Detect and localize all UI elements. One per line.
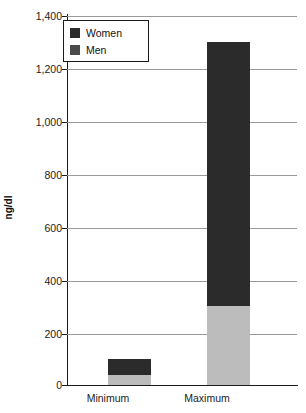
x-axis-line [65,385,298,386]
bar-minimum[interactable] [108,359,151,385]
y-tick-mark [62,281,67,282]
stacked-bar-chart: ng/dl 1,400 1,200 1,000 800 600 400 200 … [0,0,306,413]
y-tick-mark [62,385,67,386]
y-tick-mark [62,69,67,70]
y-tick-label: 800 [18,169,62,181]
legend-item-women[interactable]: Women [70,25,148,41]
x-tick-label-minimum: Minimum [78,392,138,404]
y-tick-label: 1,000 [18,116,62,128]
legend-item-men[interactable]: Men [70,42,148,58]
y-tick-label: 0 [18,379,62,391]
y-axis-tick-labels: 1,400 1,200 1,000 800 600 400 200 0 [14,0,62,413]
gridline [67,281,297,282]
bar-segment-women[interactable] [108,375,151,386]
legend-label-women: Women [86,28,122,39]
gridline [67,175,297,176]
y-axis-title-label: ng/dl [4,195,15,219]
bar-segment-women[interactable] [207,306,250,385]
x-tick-label-maximum: Maximum [177,392,237,404]
y-tick-label: 1,200 [18,63,62,75]
y-tick-mark [62,175,67,176]
gridline [67,228,297,229]
legend: Women Men [63,20,149,62]
gridline [67,334,297,335]
y-tick-label: 400 [18,275,62,287]
gridline [67,122,297,123]
y-tick-label: 600 [18,222,62,234]
legend-label-men: Men [86,45,106,56]
bar-segment-men[interactable] [207,42,250,306]
bar-segment-men[interactable] [108,359,151,375]
gridline [67,69,297,70]
legend-swatch-men-icon [70,45,80,55]
legend-swatch-women-icon [70,28,80,38]
bar-maximum[interactable] [207,42,250,385]
gridline [67,16,297,17]
plot-area [67,16,297,385]
y-tick-label: 1,400 [18,10,62,22]
y-tick-mark [62,122,67,123]
y-tick-mark [62,334,67,335]
y-tick-label: 200 [18,328,62,340]
y-tick-mark [62,16,67,17]
y-tick-mark [62,228,67,229]
